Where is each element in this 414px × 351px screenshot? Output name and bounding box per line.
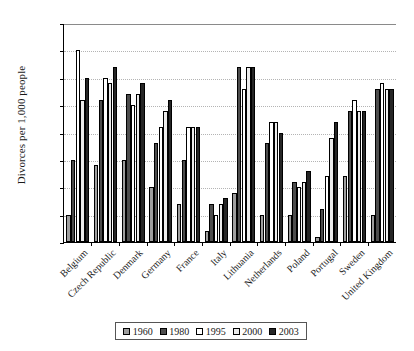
bar-group xyxy=(230,24,258,242)
bar-group xyxy=(119,24,147,242)
legend-swatch-1995 xyxy=(196,328,203,335)
legend-item-1960[interactable]: 1960 xyxy=(123,326,153,337)
bar-groups xyxy=(64,24,396,242)
bar-group xyxy=(64,24,92,242)
bar-2003-italy xyxy=(223,198,227,242)
legend-item-2003[interactable]: 2003 xyxy=(269,326,299,337)
bar-2003-united-kingdom xyxy=(389,89,393,242)
bar-2003-czech-republic xyxy=(113,67,117,242)
x-axis-category-labels: BelgiumCzech RepublicDenmarkGermanyFranc… xyxy=(63,247,396,315)
bar-group xyxy=(368,24,396,242)
legend-item-2000[interactable]: 2000 xyxy=(233,326,263,337)
y-axis-tick-mark xyxy=(60,243,64,244)
legend-item-1980[interactable]: 1980 xyxy=(160,326,190,337)
plot-area xyxy=(63,24,396,243)
bar-2003-portugal xyxy=(334,122,338,242)
legend-label: 1980 xyxy=(169,326,189,337)
bar-group xyxy=(92,24,120,242)
legend-swatch-1980 xyxy=(160,328,167,335)
bar-group xyxy=(341,24,369,242)
bar-2003-lithuania xyxy=(251,67,255,242)
bar-2003-belgium xyxy=(85,78,89,242)
legend-label: 2003 xyxy=(279,326,299,337)
bar-2003-germany xyxy=(168,100,172,242)
bar-group xyxy=(258,24,286,242)
legend-label: 1960 xyxy=(133,326,153,337)
legend-swatch-2000 xyxy=(233,328,240,335)
legend-label: 2000 xyxy=(242,326,262,337)
legend-item-1995[interactable]: 1995 xyxy=(196,326,226,337)
legend-swatch-1960 xyxy=(123,328,130,335)
bar-group xyxy=(202,24,230,242)
x-axis-label-text: Italy xyxy=(208,247,229,268)
bar-2003-sweden xyxy=(362,111,366,242)
legend-swatch-2003 xyxy=(269,328,276,335)
y-axis-title: Divorces per 1,000 people xyxy=(15,20,27,230)
x-axis-label-text: United Kingdom xyxy=(339,247,395,303)
chart-legend: 19601980199520002003 xyxy=(115,322,307,340)
legend-label: 1995 xyxy=(206,326,226,337)
x-axis-label-text: France xyxy=(174,247,201,274)
bar-group xyxy=(313,24,341,242)
divorce-rate-bar-chart: Divorces per 1,000 people 4.03.53.02.52.… xyxy=(0,0,414,351)
bar-group xyxy=(285,24,313,242)
bar-group xyxy=(175,24,203,242)
